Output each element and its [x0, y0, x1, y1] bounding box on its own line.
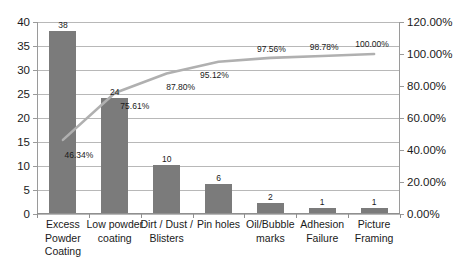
bar-value-label: 24	[110, 87, 119, 97]
y-axis-left-tick	[33, 118, 37, 119]
y-axis-right-tick	[400, 118, 404, 119]
y-axis-right-tick	[400, 150, 404, 151]
y-axis-left-tick-label: 10	[17, 160, 30, 172]
grid-line	[37, 94, 400, 95]
x-axis-line	[37, 213, 400, 214]
y-axis-left-tick-label: 15	[17, 136, 30, 148]
bar-value-label: 2	[268, 192, 273, 202]
y-axis-right-tick-label: 120.00%	[407, 16, 452, 28]
bar	[153, 165, 180, 213]
y-axis-left-tick	[33, 142, 37, 143]
bar	[257, 203, 284, 213]
bar-value-label: 38	[58, 20, 67, 30]
y-axis-right-tick	[400, 182, 404, 183]
cumulative-percent-label: 87.80%	[166, 82, 195, 92]
y-axis-left-tick-label: 5	[24, 184, 30, 196]
y-axis-right-tick-label: 0.00%	[407, 208, 440, 220]
y-axis-left-tick-label: 40	[17, 16, 30, 28]
plot-area: 0510152025303540 0.00%20.00%40.00%60.00%…	[37, 22, 400, 214]
y-axis-right-tick	[400, 22, 404, 23]
bar-value-label: 10	[162, 154, 171, 164]
y-axis-left-tick	[33, 166, 37, 167]
bar	[101, 98, 128, 213]
cumulative-percent-label: 100.00%	[355, 39, 389, 49]
bar	[49, 31, 76, 213]
y-axis-left-tick	[33, 70, 37, 71]
cumulative-percent-label: 46.34%	[65, 150, 94, 160]
grid-line	[37, 166, 400, 167]
x-axis-category-labels: Excess Powder CoatingLow powder coatingD…	[37, 218, 400, 268]
y-axis-right-tick-label: 40.00%	[407, 144, 446, 156]
cumulative-percent-label: 95.12%	[200, 70, 229, 80]
y-axis-right-tick-label: 100.00%	[407, 48, 452, 60]
y-axis-left-tick	[33, 94, 37, 95]
bar-value-label: 1	[320, 197, 325, 207]
y-axis-right-tick-label: 80.00%	[407, 80, 446, 92]
y-axis-left-tick-label: 0	[24, 208, 30, 220]
y-axis-left-tick-label: 30	[17, 64, 30, 76]
y-axis-left-tick-label: 20	[17, 112, 30, 124]
bar	[309, 208, 336, 213]
bar	[361, 208, 388, 213]
x-axis-category-label: Excess Powder Coating	[33, 218, 93, 259]
x-axis-category-label: Adhesion Failure	[292, 218, 352, 245]
y-axis-left-tick-label: 25	[17, 88, 30, 100]
grid-line	[37, 22, 400, 23]
cumulative-percent-label: 98.78%	[310, 42, 339, 52]
y-axis-left-tick	[33, 46, 37, 47]
y-axis-right-tick-label: 60.00%	[407, 112, 446, 124]
x-axis-category-label: Oil/Bubble marks	[240, 218, 300, 245]
grid-line	[37, 118, 400, 119]
y-axis-right-tick	[400, 86, 404, 87]
y-axis-right-tick-label: 20.00%	[407, 176, 446, 188]
x-axis-category-label: Low powder coating	[85, 218, 145, 245]
pareto-chart: 0510152025303540 0.00%20.00%40.00%60.00%…	[0, 0, 456, 270]
y-axis-right-tick	[400, 54, 404, 55]
y-axis-left-tick-label: 35	[17, 40, 30, 52]
bar-value-label: 1	[372, 197, 377, 207]
y-axis-left-tick	[33, 190, 37, 191]
y-axis-left-line	[37, 22, 38, 214]
grid-line	[37, 46, 400, 47]
bar-value-label: 6	[216, 173, 221, 183]
y-axis-left-tick	[33, 22, 37, 23]
cumulative-percent-label: 75.61%	[120, 101, 149, 111]
bar	[205, 184, 232, 213]
x-axis-category-label: Dirt / Dust / Blisters	[137, 218, 197, 245]
grid-line	[37, 214, 400, 215]
cumulative-percent-label: 97.56%	[257, 44, 286, 54]
grid-line	[37, 142, 400, 143]
x-axis-category-label: Picture Framing	[344, 218, 404, 245]
